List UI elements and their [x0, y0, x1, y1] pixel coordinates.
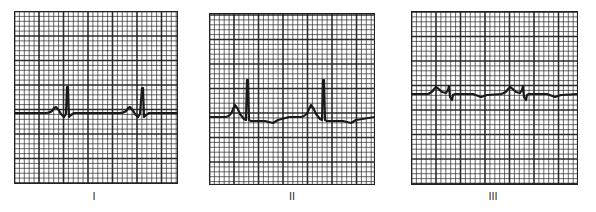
ecg-grid-lead-i — [14, 11, 178, 184]
ecg-grid-lead-ii — [209, 13, 375, 185]
ecg-panel-lead-iii — [411, 11, 578, 185]
grid-lines — [209, 13, 375, 185]
lead-label-ii: II — [272, 190, 312, 202]
lead-label-i: I — [74, 190, 114, 202]
grid-lines — [14, 11, 178, 184]
grid-lines — [411, 11, 578, 185]
ecg-panel-lead-i — [14, 11, 178, 184]
ecg-panel-lead-ii — [209, 13, 375, 185]
ecg-grid-lead-iii — [411, 11, 578, 185]
lead-label-iii: III — [473, 190, 513, 202]
